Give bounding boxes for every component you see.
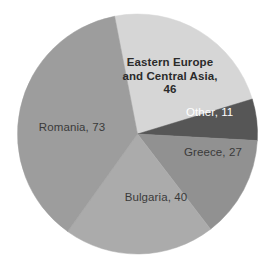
pie-slice-group — [18, 14, 258, 254]
pie-chart-canvas — [0, 0, 275, 274]
pie-chart: Eastern Europe and Central Asia, 46 Othe… — [0, 0, 275, 274]
